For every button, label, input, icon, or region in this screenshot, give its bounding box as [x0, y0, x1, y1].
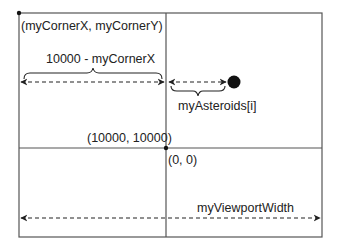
- viewport-width-label: myViewportWidth: [197, 201, 294, 215]
- wrap-point-label: (10000, 10000): [87, 131, 172, 145]
- origin-point: [164, 146, 168, 150]
- asteroid-dot: [228, 76, 241, 89]
- viewport-wrap-diagram: (myCornerX, myCornerY) 10000 - myCornerX…: [0, 0, 343, 250]
- corner-point: [17, 11, 21, 15]
- corner-label: (myCornerX, myCornerY): [21, 19, 163, 33]
- asteroid-label: myAsteroids[i]: [178, 99, 257, 113]
- distance-label: 10000 - myCornerX: [46, 52, 156, 66]
- distance-brace: [24, 68, 162, 79]
- asteroid-brace: [171, 86, 225, 96]
- origin-label: (0, 0): [168, 153, 197, 167]
